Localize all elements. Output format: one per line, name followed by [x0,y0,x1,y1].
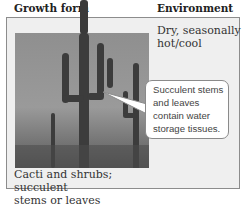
cactus-photo [15,33,149,168]
caption-line-2: stems or leaves [14,194,154,207]
caption-line-1: Cacti and shrubs; succulent [14,168,154,194]
header-environment: Environment [157,2,233,14]
header-growth-form: Growth form [14,2,89,14]
callout-line-2: and leaves [153,96,225,109]
environment-line-1: Dry, seasonally [157,24,241,37]
growth-form-caption: Cacti and shrubs; succulent stems or lea… [14,168,154,207]
environment-description: Dry, seasonally hot/cool [157,24,241,50]
environment-line-2: hot/cool [157,37,241,50]
callout-line-3: contain water [153,109,225,122]
cactus-top-stem [80,0,88,34]
callout-line-1: Succulent stems [153,83,225,96]
callout-box: Succulent stems and leaves contain water… [145,80,229,139]
callout-line-4: storage tissues. [153,122,225,135]
